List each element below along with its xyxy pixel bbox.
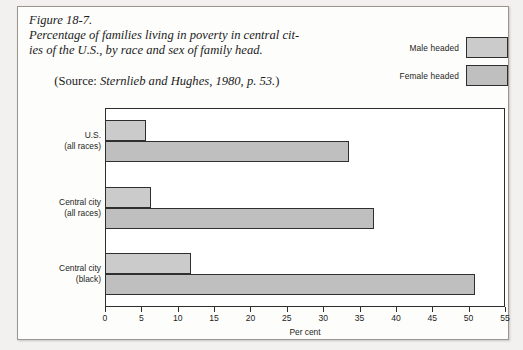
y-axis-category-labels: U.S.(all races)Central city(all races)Ce… [23,108,101,307]
legend-swatch-female-headed [466,65,508,86]
figure-box: Figure 18-7. Percentage of families livi… [17,6,509,340]
bar-female-headed [105,208,374,229]
x-axis-tick-label: 20 [235,313,265,323]
x-axis-tick [432,307,433,312]
plot-area [105,108,505,307]
x-axis-tick-label: 10 [163,313,193,323]
bar-female-headed [105,274,475,295]
y-axis-label-2: Central city(black) [27,263,101,285]
chart-legend: Male headed Female headed [386,37,508,93]
bar-male-headed [105,187,151,208]
caption-source-text: Sternlieb and Hughes, 1980, p. 53. [100,74,275,88]
x-axis-tick [287,307,288,312]
x-axis-tick-label: 25 [272,313,302,323]
bar-male-headed [105,253,191,274]
x-axis-tick [178,307,179,312]
x-axis-tick-label: 55 [490,313,520,323]
x-axis-tick-label: 30 [308,313,338,323]
x-axis-tick [323,307,324,312]
caption-source-suffix: ) [275,74,279,88]
x-axis-tick [469,307,470,312]
y-axis-label-line1: Central city [27,263,101,274]
legend-swatch-male-headed [466,37,508,58]
y-axis-label-line1: Central city [27,197,101,208]
x-axis-tick-label: 0 [90,313,120,323]
x-axis-tick [505,307,506,312]
x-axis-tick [396,307,397,312]
x-axis-title: Per cent [105,327,505,337]
caption-line-2: ies of the U.S., by race and sex of fami… [29,43,379,58]
x-axis-tick-label: 5 [126,313,156,323]
caption-source: (Source: Sternlieb and Hughes, 1980, p. … [29,59,379,105]
y-axis-label-line2: (all races) [27,208,101,219]
bar-female-headed [105,141,349,162]
legend-item-male-headed: Male headed [386,37,508,58]
x-axis-tick [360,307,361,312]
y-axis-label-line2: (all races) [27,141,101,152]
figure-caption: Figure 18-7. Percentage of families livi… [29,13,379,104]
y-axis-label-0: U.S.(all races) [27,130,101,152]
page-background: Figure 18-7. Percentage of families livi… [0,0,523,350]
x-axis-tick-label: 50 [454,313,484,323]
x-axis-tick [105,307,106,312]
y-axis-label-1: Central city(all races) [27,197,101,219]
y-axis-label-line1: U.S. [27,130,101,141]
x-axis-tick-label: 40 [381,313,411,323]
legend-item-female-headed: Female headed [386,65,508,86]
x-axis-tick [141,307,142,312]
x-axis-tick [250,307,251,312]
bar-male-headed [105,120,146,141]
x-axis-tick-label: 35 [345,313,375,323]
caption-figure-number: Figure 18-7. [29,13,379,28]
x-axis-tick-label: 45 [417,313,447,323]
legend-label-female-headed: Female headed [400,71,460,81]
caption-source-prefix: (Source: [54,74,100,88]
x-axis-tick [214,307,215,312]
caption-line-1: Percentage of families living in poverty… [29,28,379,43]
y-axis-label-line2: (black) [27,274,101,285]
legend-label-male-headed: Male headed [409,43,459,53]
x-axis-tick-label: 15 [199,313,229,323]
